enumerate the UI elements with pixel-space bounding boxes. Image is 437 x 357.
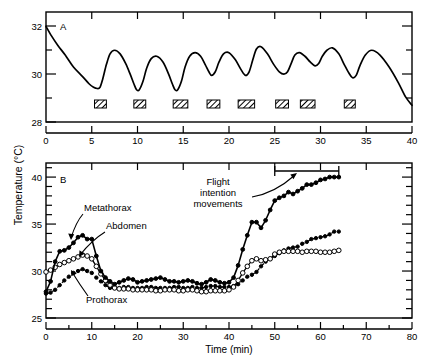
panel-b-letter: B xyxy=(60,174,66,185)
data-point xyxy=(264,218,268,222)
data-point xyxy=(62,248,66,252)
data-point xyxy=(104,283,107,286)
panel-b-ytick-35: 35 xyxy=(31,219,42,230)
data-point xyxy=(296,189,300,193)
panel-b-y-ticks xyxy=(46,168,56,318)
data-point xyxy=(223,281,227,285)
data-point xyxy=(287,190,291,194)
panel-a-xtick-35: 35 xyxy=(361,135,372,146)
panel-a-activity-bar xyxy=(95,100,107,108)
panel-a-xtick-5: 5 xyxy=(89,135,94,146)
data-point xyxy=(176,288,181,293)
data-point xyxy=(149,288,154,293)
panel-a-xtick-40: 40 xyxy=(407,135,418,146)
data-point xyxy=(337,248,342,253)
data-point xyxy=(254,257,259,262)
data-point xyxy=(172,288,177,293)
data-point xyxy=(49,279,53,283)
panel-a-x-ticks xyxy=(46,126,412,133)
data-point xyxy=(181,279,185,283)
data-point xyxy=(99,280,102,283)
data-point xyxy=(181,288,186,293)
data-point xyxy=(117,280,121,284)
data-point xyxy=(122,279,126,283)
panel-a-activity-bar xyxy=(238,100,254,108)
data-point xyxy=(332,249,337,254)
data-point xyxy=(90,271,93,274)
data-point xyxy=(195,288,200,293)
data-point xyxy=(213,288,218,293)
data-point xyxy=(246,275,249,278)
data-point xyxy=(53,260,57,264)
data-point xyxy=(121,287,126,292)
data-point xyxy=(158,276,162,280)
data-point xyxy=(168,279,172,283)
panel-a-xtick-30: 30 xyxy=(315,135,326,146)
data-point xyxy=(255,220,259,224)
data-point xyxy=(58,249,62,253)
data-point xyxy=(204,289,209,294)
data-point xyxy=(240,271,245,276)
panel-a-top-ticks xyxy=(92,12,367,19)
arrowhead-metathorax xyxy=(68,234,74,240)
data-point xyxy=(259,258,264,263)
data-point xyxy=(131,278,135,282)
data-point xyxy=(323,235,326,238)
data-point xyxy=(227,288,232,293)
data-point xyxy=(309,183,313,187)
data-point xyxy=(333,230,336,233)
data-point xyxy=(44,270,49,275)
panel-a-xtick-25: 25 xyxy=(269,135,280,146)
data-point xyxy=(295,249,300,254)
panel-b-y-ticklabels: 25 30 35 40 xyxy=(31,172,42,324)
data-point xyxy=(85,254,90,259)
data-point xyxy=(232,276,236,280)
data-point xyxy=(218,280,222,284)
data-point xyxy=(95,276,98,279)
data-point xyxy=(286,249,291,254)
two-panel-temperature-figure: Temperature (°C) A 28 30 32 xyxy=(0,0,437,357)
data-point xyxy=(300,250,305,255)
data-point xyxy=(291,192,295,196)
data-point xyxy=(236,278,241,283)
data-point xyxy=(323,250,328,255)
data-point xyxy=(191,279,195,283)
data-point xyxy=(259,265,262,268)
panel-b-right-ticks xyxy=(402,168,412,318)
panel-b-xtick-60: 60 xyxy=(315,331,326,342)
data-point xyxy=(140,279,144,283)
panel-a-ytick-30: 30 xyxy=(31,69,42,80)
data-point xyxy=(62,260,67,265)
panel-b-xtick-30: 30 xyxy=(178,331,189,342)
data-point xyxy=(328,233,331,236)
x-axis-label: Time (min) xyxy=(205,344,252,355)
data-point xyxy=(304,249,309,254)
panel-a-xtick-15: 15 xyxy=(178,135,189,146)
flight-intention-line-1: Flight xyxy=(206,176,230,187)
data-point xyxy=(209,278,213,282)
data-point xyxy=(241,248,245,252)
data-point xyxy=(231,285,236,290)
panel-b-series-metathorax xyxy=(44,175,341,293)
data-point xyxy=(300,186,304,190)
panel-b-x-ticklabels: 0 10 20 30 40 50 60 70 80 xyxy=(43,331,417,342)
data-point xyxy=(319,236,322,239)
data-point xyxy=(314,249,319,254)
panel-b-xtick-10: 10 xyxy=(86,331,97,342)
panel-a-ytick-32: 32 xyxy=(31,21,42,32)
data-point xyxy=(209,284,212,287)
data-point xyxy=(76,235,80,239)
data-point xyxy=(131,288,136,293)
label-metathorax: Metathorax xyxy=(84,202,132,213)
panel-b-xtick-70: 70 xyxy=(361,331,372,342)
data-point xyxy=(305,183,309,187)
data-point xyxy=(282,194,286,198)
data-point xyxy=(67,246,71,250)
data-point xyxy=(259,226,263,230)
data-point xyxy=(236,263,240,267)
panel-b-ytick-40: 40 xyxy=(31,172,42,183)
data-point xyxy=(158,288,163,293)
data-point xyxy=(94,254,98,258)
data-point xyxy=(126,287,131,292)
data-point xyxy=(172,279,176,283)
